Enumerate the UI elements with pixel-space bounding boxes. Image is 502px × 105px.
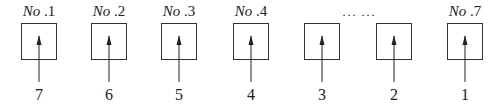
arrowhead-icon xyxy=(107,35,112,45)
arrows-layer xyxy=(0,0,502,105)
arrowhead-icon xyxy=(177,35,182,45)
arrowhead-icon xyxy=(463,35,468,45)
arrowhead-icon xyxy=(392,35,397,45)
arrowhead-icon xyxy=(37,35,42,45)
arrowhead-icon xyxy=(249,35,254,45)
arrowhead-icon xyxy=(320,35,325,45)
